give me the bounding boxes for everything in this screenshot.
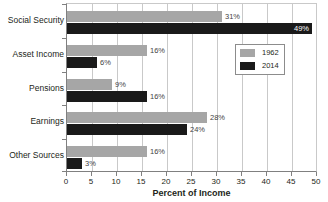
bar-value-1962-earnings: 28% [207, 112, 225, 123]
x-axis-tick [141, 172, 142, 176]
x-axis-tick-label: 35 [237, 177, 246, 186]
x-axis-tick [191, 172, 192, 176]
bar-value-2014-asset-income: 6% [97, 57, 111, 68]
x-axis-tick-label: 15 [137, 177, 146, 186]
x-axis-tick-label: 45 [287, 177, 296, 186]
bar-1962-other-sources [67, 146, 147, 157]
bar-value-2014-earnings: 24% [187, 124, 205, 135]
x-axis-tick [266, 172, 267, 176]
bar-2014-other-sources [67, 158, 82, 169]
legend-swatch-2014 [240, 62, 255, 70]
legend-item-1962: 1962 [240, 48, 279, 58]
x-axis-tick [66, 172, 67, 176]
bar-1962-pensions [67, 79, 112, 90]
legend-swatch-1962 [240, 49, 255, 57]
bar-2014-earnings [67, 124, 187, 135]
bar-value-2014-social-security: 49% [294, 23, 312, 34]
bar-value-2014-other-sources: 3% [82, 158, 96, 169]
category-label-pensions: Pensions [0, 84, 64, 93]
legend-item-2014: 2014 [240, 61, 279, 71]
x-axis-tick [166, 172, 167, 176]
bar-1962-social-security [67, 11, 222, 22]
category-label-other-sources: Other Sources [0, 151, 64, 160]
x-axis-tick [291, 172, 292, 176]
category-label-asset-income: Asset Income [0, 50, 64, 59]
x-axis-tick-label: 50 [312, 177, 321, 186]
bar-value-1962-asset-income: 16% [147, 45, 165, 56]
x-axis-tick [316, 172, 317, 176]
bar-2014-social-security [67, 23, 312, 34]
bar-value-1962-pensions: 9% [112, 79, 126, 90]
x-axis-tick [241, 172, 242, 176]
bar-1962-earnings [67, 112, 207, 123]
x-axis-tick [216, 172, 217, 176]
bar-value-1962-other-sources: 16% [147, 146, 165, 157]
x-axis-tick [91, 172, 92, 176]
x-axis-tick-label: 40 [262, 177, 271, 186]
bar-value-2014-pensions: 16% [147, 91, 165, 102]
x-axis-tick-label: 20 [162, 177, 171, 186]
x-axis-tick-label: 25 [187, 177, 196, 186]
bar-1962-asset-income [67, 45, 147, 56]
legend-label-2014: 2014 [262, 62, 279, 70]
x-axis-tick-label: 0 [64, 177, 68, 186]
category-label-social-security: Social Security [0, 16, 64, 25]
x-axis-tick-label: 30 [212, 177, 221, 186]
bar-value-1962-social-security: 31% [222, 11, 240, 22]
plot-area: 31% 49% 16% 6% 9% 16% 28% 24% 16% 3% [66, 3, 317, 172]
x-axis-tick [116, 172, 117, 176]
x-axis-title: Percent of Income [66, 188, 317, 198]
bar-2014-pensions [67, 91, 147, 102]
bar-2014-asset-income [67, 57, 97, 68]
grouped-bar-chart: Social Security Asset Income Pensions Ea… [0, 0, 328, 202]
category-label-earnings: Earnings [0, 117, 64, 126]
legend-label-1962: 1962 [262, 49, 279, 57]
x-axis-tick-label: 10 [112, 177, 121, 186]
x-axis-tick-label: 5 [89, 177, 93, 186]
legend: 1962 2014 [235, 44, 285, 75]
